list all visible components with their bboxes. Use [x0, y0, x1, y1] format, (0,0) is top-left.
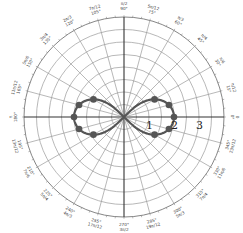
- tick-mark: [206, 174, 207, 175]
- spoke-line: [124, 20, 150, 117]
- tick-mark: [181, 34, 182, 35]
- angle-label: π180°: [8, 112, 18, 122]
- tick-mark: [81, 208, 82, 210]
- tick-mark: [32, 74, 34, 75]
- svg-text:75°: 75°: [148, 9, 156, 16]
- tick-mark: [81, 25, 82, 27]
- tick-mark: [36, 66, 38, 67]
- spoke-line: [124, 67, 211, 117]
- tick-mark: [46, 181, 47, 182]
- svg-text:3π/2: 3π/2: [119, 227, 129, 232]
- spoke-line: [98, 117, 124, 214]
- angle-label: 300°5π/3: [172, 205, 186, 219]
- tick-mark: [174, 29, 175, 31]
- angle-label: 5π/1275°: [146, 3, 160, 16]
- tick-mark: [188, 194, 189, 195]
- data-point-marker: [71, 114, 78, 121]
- angle-label: 195°13π/12: [11, 137, 25, 154]
- angle-label: 255°17π/12: [87, 217, 104, 231]
- tick-mark: [215, 74, 217, 75]
- radial-label: 2: [171, 119, 178, 132]
- tick-mark: [52, 188, 53, 189]
- data-point-marker: [90, 131, 97, 138]
- tick-mark: [201, 181, 202, 182]
- tick-mark: [188, 39, 189, 40]
- svg-text:15°: 15°: [225, 85, 232, 93]
- tick-mark: [59, 194, 60, 195]
- spoke-line: [37, 117, 124, 167]
- svg-text:180°: 180°: [13, 112, 18, 122]
- tick-mark: [46, 52, 47, 53]
- data-point-marker: [76, 126, 83, 133]
- angle-label: 285°19π/12: [144, 216, 161, 230]
- angle-label: 7π/12105°: [88, 3, 102, 16]
- tick-mark: [215, 159, 217, 160]
- tick-mark: [41, 59, 42, 60]
- spoke-line: [98, 20, 124, 117]
- angle-label: 330°11π/6: [212, 164, 227, 180]
- tick-mark: [174, 204, 175, 206]
- angle-label: 2π/3120°: [62, 14, 76, 28]
- data-point-marker: [166, 102, 173, 109]
- tick-mark: [166, 25, 167, 27]
- angle-label: 210°7π/6: [22, 165, 36, 179]
- tick-mark: [201, 52, 202, 53]
- polar-chart: 00°π/1215°π/630°π/445°π/360°5π/1275°π/29…: [0, 0, 243, 233]
- tick-mark: [206, 59, 207, 60]
- svg-text:90°: 90°: [120, 6, 127, 11]
- spoke-line: [37, 67, 124, 117]
- angle-label: 11π/12165°: [10, 80, 24, 97]
- svg-text:0°: 0°: [230, 115, 235, 120]
- angle-label: π/630°: [214, 56, 226, 67]
- tick-mark: [66, 199, 67, 200]
- data-point-marker: [151, 96, 158, 103]
- data-point-marker: [151, 131, 158, 138]
- tick-mark: [41, 174, 42, 175]
- tick-mark: [73, 29, 74, 31]
- tick-mark: [66, 34, 67, 35]
- tick-mark: [73, 204, 74, 206]
- tick-mark: [211, 167, 213, 168]
- tick-mark: [36, 167, 38, 168]
- angle-label: 225°5π/4: [39, 188, 53, 202]
- angle-label: 5π/6150°: [21, 55, 35, 69]
- angle-label: π/290°: [120, 1, 127, 11]
- angle-label: 315°7π/4: [195, 188, 209, 202]
- data-point-marker: [76, 102, 83, 109]
- angle-label: π/445°: [196, 32, 208, 44]
- angle-label: π/360°: [174, 15, 185, 27]
- tick-mark: [195, 45, 196, 46]
- angle-label: 240°4π/3: [62, 205, 76, 219]
- angle-label: 270°3π/2: [119, 222, 129, 232]
- tick-mark: [181, 199, 182, 200]
- tick-mark: [166, 208, 167, 210]
- tick-mark: [52, 45, 53, 46]
- angle-label: 00°: [230, 115, 240, 120]
- angle-label: 345°23π/12: [224, 137, 238, 154]
- radial-label: 3: [196, 119, 203, 132]
- tick-mark: [211, 66, 213, 67]
- data-point-marker: [90, 96, 97, 103]
- tick-mark: [59, 39, 60, 40]
- angle-label: π/1215°: [225, 83, 237, 95]
- angle-label: 3π/4135°: [38, 31, 52, 45]
- tick-mark: [195, 188, 196, 189]
- radial-label: 1: [146, 119, 153, 132]
- tick-mark: [32, 159, 34, 160]
